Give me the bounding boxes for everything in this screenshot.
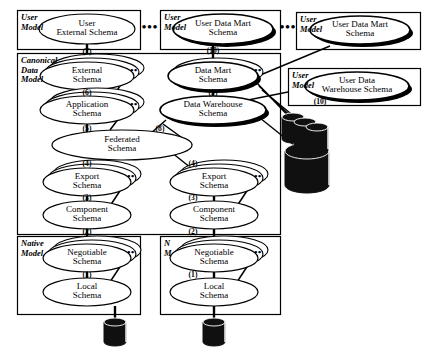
node-ellipse-component-schema-left[interactable] [43,201,131,229]
node-data-warehouse-schema [160,96,269,127]
cylinder-top-db-cylinder-left [104,318,126,326]
diagram-canvas [0,0,429,351]
cylinder-db-cylinder-mart-c [306,123,328,153]
cylinder-top-db-cylinder-mart-c [306,123,328,131]
node-local-schema-right [170,278,258,306]
node-federated-schema [52,130,192,160]
node-ellipse-negotiable-schema-right[interactable] [170,244,258,272]
node-ellipse-user-data-mart-schema-2[interactable] [310,16,410,44]
node-data-mart-schema [168,58,263,93]
node-user-data-mart-schema-2 [310,16,413,47]
node-ellipse-user-data-warehouse-schema[interactable] [305,72,409,100]
node-ellipse-user-data-mart-schema-1[interactable] [173,14,273,44]
node-ellipse-data-warehouse-schema[interactable] [160,96,266,124]
node-export-schema-left [43,160,141,196]
node-application-schema [40,88,144,124]
node-ellipse-local-schema-right[interactable] [170,278,258,306]
node-ellipse-export-schema-left[interactable] [43,168,131,196]
cylinder-db-cylinder-left [104,318,126,346]
cylinder-db-cylinder-right [203,318,225,346]
node-ellipse-application-schema[interactable] [40,96,134,124]
node-ellipse-federated-schema[interactable] [52,130,192,160]
node-component-schema-right [170,201,258,229]
node-ellipse-negotiable-schema-left[interactable] [43,244,131,272]
node-external-schema [40,54,144,90]
shapes-group [18,11,421,315]
node-user-data-mart-schema-1 [173,14,276,47]
node-export-schema-right [170,160,268,196]
node-ellipse-external-schema[interactable] [40,62,134,90]
node-ellipse-user-external-schema[interactable] [39,14,135,44]
node-local-schema-left [43,278,131,306]
cylinder-top-db-cylinder-right [203,318,225,326]
node-ellipse-export-schema-right[interactable] [170,168,258,196]
schema-architecture-diagram: UserModelUserModelUserModelUserModelCano… [0,0,429,351]
node-ellipse-local-schema-left[interactable] [43,278,131,306]
node-user-data-warehouse-schema [305,72,412,103]
node-ellipse-component-schema-right[interactable] [170,201,258,229]
node-negotiable-schema-right [170,236,268,272]
diagonal-connector-8 [258,46,330,76]
node-ellipse-data-mart-schema[interactable] [168,62,258,90]
node-negotiable-schema-left [43,236,141,272]
node-component-schema-left [43,201,131,229]
node-user-external-schema [39,14,135,44]
